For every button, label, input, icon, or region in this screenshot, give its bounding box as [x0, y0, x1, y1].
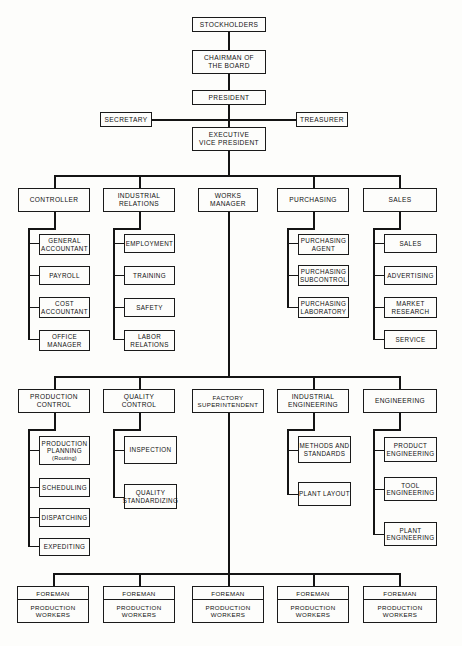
node-label: TRAINING — [133, 272, 166, 279]
node-label: PLANT — [399, 527, 421, 534]
drop-engineering — [399, 376, 401, 389]
node-engineering[interactable]: ENGINEERING — [363, 389, 437, 413]
node-label: MANAGER — [210, 200, 246, 208]
node-label: WORKERS — [211, 611, 245, 618]
bus-foremen — [53, 573, 399, 575]
node-label: SCHEDULING — [42, 484, 87, 491]
node-label: PRODUCTION — [116, 604, 161, 611]
node-label: ENGINEERING — [375, 397, 425, 405]
tick-product-engineering — [373, 450, 384, 451]
tick-purchasing-subcontrol — [287, 275, 298, 276]
connector-spine-treasurer — [228, 119, 296, 121]
node-purchasing-agent[interactable]: PURCHASING AGENT — [298, 234, 349, 255]
node-label: PAYROLL — [49, 272, 80, 279]
node-label: PRODUCTION — [205, 604, 250, 611]
node-foreman-1[interactable]: FOREMAN PRODUCTION WORKERS — [17, 586, 89, 623]
node-president[interactable]: PRESIDENT — [192, 90, 266, 105]
rail-controller — [28, 228, 30, 340]
node-works-manager[interactable]: WORKS MANAGER — [198, 188, 258, 212]
node-dispatching[interactable]: DISPATCHING — [39, 508, 90, 527]
node-label: INSPECTION — [130, 446, 172, 453]
node-payroll[interactable]: PAYROLL — [39, 266, 90, 285]
node-office-manager[interactable]: OFFICE MANAGER — [39, 330, 90, 351]
node-expediting[interactable]: EXPEDITING — [39, 538, 90, 556]
node-general-accountant[interactable]: GENERAL ACCOUNTANT — [39, 234, 90, 255]
rail-sales — [373, 228, 375, 340]
node-label: LABOR — [138, 333, 161, 340]
node-labor-relations[interactable]: LABOR RELATIONS — [124, 330, 175, 351]
node-industrial-relations[interactable]: INDUSTRIAL RELATIONS — [103, 188, 175, 212]
connector-stockholders-chairman — [228, 32, 230, 50]
node-label: STANDARDIZING — [123, 497, 179, 504]
node-label: ENGINEERING — [387, 450, 435, 457]
node-label-parenthetical: (Routing) — [52, 455, 77, 461]
drop-industrial-engineering — [313, 376, 315, 389]
node-label: LABORATORY — [301, 308, 347, 315]
node-advertising[interactable]: ADVERTISING — [384, 266, 437, 285]
node-employment[interactable]: EMPLOYMENT — [124, 234, 175, 253]
tick-scheduling — [28, 487, 39, 488]
node-industrial-engineering[interactable]: INDUSTRIAL ENGINEERING — [277, 389, 349, 413]
node-foreman-3[interactable]: FOREMAN PRODUCTION WORKERS — [192, 586, 264, 623]
node-purchasing-laboratory[interactable]: PURCHASING LABORATORY — [298, 297, 349, 318]
drop-sales — [399, 175, 401, 188]
node-product-engineering[interactable]: PRODUCT ENGINEERING — [384, 437, 437, 462]
connector-executive-vp-bus — [228, 151, 230, 176]
node-foreman-4[interactable]: FOREMAN PRODUCTION WORKERS — [277, 586, 349, 623]
node-label: CHAIRMAN OF — [204, 54, 254, 62]
node-treasurer[interactable]: TREASURER — [296, 112, 348, 127]
node-foreman-5[interactable]: FOREMAN PRODUCTION WORKERS — [363, 586, 437, 623]
node-label: DISPATCHING — [42, 514, 88, 521]
node-purchasing[interactable]: PURCHASING — [277, 188, 349, 212]
node-label: INDUSTRIAL — [118, 192, 161, 200]
node-foreman-2[interactable]: FOREMAN PRODUCTION WORKERS — [103, 586, 175, 623]
tick-production-planning — [28, 450, 39, 451]
node-training[interactable]: TRAINING — [124, 266, 175, 285]
node-executive-vice-president[interactable]: EXECUTIVE VICE PRESIDENT — [192, 127, 266, 151]
node-sales-sub[interactable]: SALES — [384, 234, 437, 253]
node-inspection[interactable]: INSPECTION — [124, 436, 177, 464]
node-quality-standardizing[interactable]: QUALITY STANDARDIZING — [124, 484, 177, 509]
node-sales[interactable]: SALES — [363, 188, 437, 212]
node-label: WORKS — [215, 192, 242, 200]
node-label: SUBCONTROL — [300, 276, 347, 283]
node-tool-engineering[interactable]: TOOL ENGINEERING — [384, 477, 437, 501]
node-plant-layout[interactable]: PLANT LAYOUT — [298, 482, 351, 506]
node-label: INDUSTRIAL — [292, 393, 335, 401]
node-label: SERVICE — [396, 336, 426, 343]
elbow-sales — [373, 228, 401, 230]
tick-tool-engineering — [373, 489, 384, 490]
node-factory-superintendent[interactable]: FACTORY SUPERINTENDENT — [192, 389, 264, 413]
node-controller[interactable]: CONTROLLER — [18, 188, 90, 212]
node-stockholders[interactable]: STOCKHOLDERS — [192, 17, 266, 32]
node-label: PRESIDENT — [209, 94, 250, 102]
node-label: PRODUCTION — [30, 393, 78, 401]
tick-safety — [113, 307, 124, 308]
foreman-title-segment: FOREMAN — [193, 587, 263, 600]
node-market-research[interactable]: MARKET RESEARCH — [384, 297, 437, 318]
rail-quality-control — [113, 429, 115, 498]
node-secretary[interactable]: SECRETARY — [100, 112, 152, 127]
tick-methods-and-standards — [287, 450, 298, 451]
node-label: PRODUCTION — [377, 604, 422, 611]
node-safety[interactable]: SAFETY — [124, 298, 175, 317]
node-cost-accountant[interactable]: COST ACCOUNTANT — [39, 297, 90, 318]
node-quality-control[interactable]: QUALITY CONTROL — [103, 389, 175, 413]
elbow-industrial-engineering — [287, 429, 315, 431]
tick-advertising — [373, 275, 384, 276]
tick-plant-layout — [287, 494, 298, 495]
node-label: PRODUCTION — [30, 604, 75, 611]
tick-inspection — [113, 450, 124, 451]
node-methods-and-standards[interactable]: METHODS AND STANDARDS — [298, 436, 351, 463]
connector-chairman-president — [228, 74, 230, 90]
node-label: METHODS AND — [299, 442, 349, 449]
node-label: QUALITY — [136, 489, 165, 496]
node-purchasing-subcontrol[interactable]: PURCHASING SUBCONTROL — [298, 265, 349, 286]
node-chairman-of-the-board[interactable]: CHAIRMAN OF THE BOARD — [192, 50, 266, 74]
node-production-control[interactable]: PRODUCTION CONTROL — [18, 389, 90, 413]
node-scheduling[interactable]: SCHEDULING — [39, 478, 90, 497]
node-production-planning[interactable]: PRODUCTION PLANNING (Routing) — [39, 436, 90, 465]
node-label: SUPERINTENDENT — [198, 401, 259, 408]
node-plant-engineering[interactable]: PLANT ENGINEERING — [384, 522, 437, 546]
node-service[interactable]: SERVICE — [384, 330, 437, 349]
